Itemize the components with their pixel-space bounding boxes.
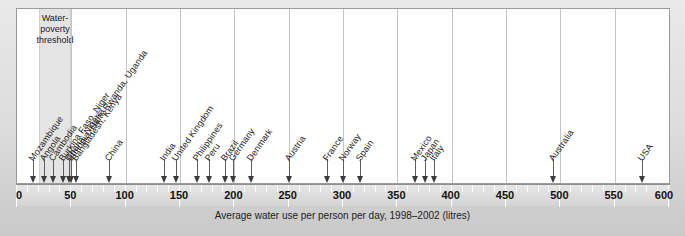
arrow-angola — [44, 159, 45, 177]
minor-tick-110 — [136, 185, 137, 192]
minor-tick-470 — [527, 185, 528, 192]
arrow-peru — [209, 159, 210, 177]
band-label-line-2: poverty — [20, 24, 90, 35]
tick-label-350: 350 — [387, 189, 405, 201]
band-label-line-1: Water- — [20, 13, 90, 24]
minor-tick-570 — [635, 185, 636, 192]
country-label-usa: USA — [636, 142, 655, 163]
arrow-ghana-nigeria — [69, 159, 70, 177]
gridline-400 — [452, 9, 453, 183]
minor-tick-460 — [516, 185, 517, 192]
minor-tick-10 — [27, 185, 28, 192]
minor-tick-510 — [570, 185, 571, 192]
gridline-100 — [126, 9, 127, 183]
arrow-france — [327, 159, 328, 177]
arrow-bangladesh-kenya — [76, 159, 77, 177]
tick-label-600: 600 — [655, 189, 673, 201]
minor-tick-430 — [483, 185, 484, 192]
arrow-burkina-faso-niger — [63, 159, 64, 177]
minor-tick-280 — [320, 185, 321, 192]
tick-label-550: 550 — [604, 189, 622, 201]
minor-tick-170 — [201, 185, 202, 192]
gridline-500 — [560, 9, 561, 183]
tick-label-300: 300 — [333, 189, 351, 201]
tick-label-150: 150 — [170, 189, 188, 201]
country-label-austria: Austria — [282, 134, 307, 163]
arrow-spain — [360, 159, 361, 177]
minor-tick-230 — [266, 185, 267, 192]
arrow-japan — [425, 159, 426, 177]
tick-label-250: 250 — [278, 189, 296, 201]
minor-tick-120 — [146, 185, 147, 192]
minor-tick-180 — [212, 185, 213, 192]
minor-tick-330 — [375, 185, 376, 192]
minor-tick-410 — [462, 185, 463, 192]
arrow-mexico — [415, 159, 416, 177]
arrow-ethiopia-haiti-rwanda-uganda — [71, 159, 72, 177]
tick-label-450: 450 — [496, 189, 514, 201]
arrow-brazil — [225, 159, 226, 177]
x-axis: 050100150200250300350400450500550600 — [16, 184, 670, 206]
minor-tick-480 — [538, 185, 539, 192]
arrow-india — [164, 159, 165, 177]
minor-tick-260 — [299, 185, 300, 192]
axis-caption: Average water use per person per day, 19… — [0, 206, 685, 236]
minor-tick-210 — [244, 185, 245, 192]
minor-tick-270 — [309, 185, 310, 192]
arrow-denmark — [251, 159, 252, 177]
minor-tick-310 — [353, 185, 354, 192]
arrow-united-kingdom — [176, 159, 177, 177]
gridline-600 — [669, 9, 670, 183]
tick-label-100: 100 — [115, 189, 133, 201]
minor-tick-80 — [103, 185, 104, 192]
minor-tick-40 — [59, 185, 60, 192]
gridline-550 — [615, 9, 616, 183]
minor-tick-160 — [190, 185, 191, 192]
arrow-philippines — [197, 159, 198, 177]
tick-label-0: 0 — [16, 189, 22, 201]
arrow-austria — [289, 159, 290, 177]
minor-tick-560 — [625, 185, 626, 192]
tick-label-500: 500 — [550, 189, 568, 201]
gridline-350 — [397, 9, 398, 183]
minor-tick-20 — [38, 185, 39, 192]
tick-label-400: 400 — [441, 189, 459, 201]
arrow-cambodia — [53, 159, 54, 177]
minor-tick-130 — [157, 185, 158, 192]
band-label-line-3: threshold — [20, 35, 90, 46]
arrow-italy — [434, 159, 435, 177]
minor-tick-520 — [581, 185, 582, 192]
arrow-australia — [553, 159, 554, 177]
arrow-germany — [233, 159, 234, 177]
minor-tick-370 — [418, 185, 419, 192]
minor-tick-70 — [92, 185, 93, 192]
minor-tick-320 — [364, 185, 365, 192]
arrow-china — [109, 159, 110, 177]
arrow-mozambique — [33, 159, 34, 177]
arrow-usa — [642, 159, 643, 177]
minor-tick-420 — [472, 185, 473, 192]
arrow-norway — [343, 159, 344, 177]
minor-tick-360 — [407, 185, 408, 192]
minor-tick-30 — [49, 185, 50, 192]
water-use-chart: Water- poverty threshold MozambiqueAngol… — [0, 0, 685, 236]
tick-label-50: 50 — [64, 189, 76, 201]
minor-tick-60 — [81, 185, 82, 192]
minor-tick-530 — [592, 185, 593, 192]
minor-tick-220 — [255, 185, 256, 192]
minor-tick-580 — [646, 185, 647, 192]
tick-label-200: 200 — [224, 189, 242, 201]
minor-tick-380 — [429, 185, 430, 192]
plot-area: Water- poverty threshold MozambiqueAngol… — [16, 8, 670, 184]
country-label-china: China — [103, 138, 125, 163]
country-label-ethiopia-haiti-rwanda-uganda: Ethiopia, Haiti, Rwanda, Uganda — [65, 48, 150, 163]
water-poverty-threshold-label: Water- poverty threshold — [20, 13, 90, 46]
gridline-450 — [506, 9, 507, 183]
